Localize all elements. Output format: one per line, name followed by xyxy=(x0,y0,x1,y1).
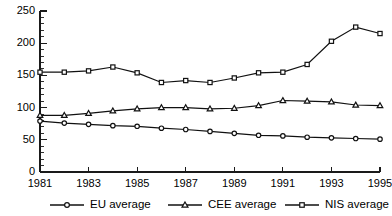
data-point-square xyxy=(111,65,115,69)
legend-label-0: EU average xyxy=(90,198,151,210)
data-point-triangle xyxy=(231,105,237,110)
x-axis-tick-label: 1995 xyxy=(368,177,392,189)
legend-item-0: EU average xyxy=(50,198,151,210)
data-point-triangle xyxy=(183,105,189,110)
data-point-square xyxy=(232,76,236,80)
data-point-circle xyxy=(159,126,163,130)
data-point-triangle xyxy=(110,108,116,113)
data-point-circle xyxy=(353,136,357,140)
data-point-triangle xyxy=(280,98,286,103)
chart-legend: EU averageCEE averageNIS average xyxy=(50,198,389,210)
data-point-circle xyxy=(135,124,139,128)
data-point-triangle xyxy=(353,102,359,107)
data-point-square xyxy=(184,78,188,82)
y-axis-tick-label: 200 xyxy=(17,36,35,48)
legend-marker-square xyxy=(300,203,304,207)
x-axis-group: 19811983198519871989199119931995 xyxy=(28,167,392,189)
x-axis-tick-label: 1991 xyxy=(271,177,295,189)
series-line-2 xyxy=(40,27,380,82)
data-point-triangle xyxy=(159,105,165,110)
legend-label-2: NIS average xyxy=(325,198,389,210)
x-axis-tick-label: 1993 xyxy=(319,177,343,189)
x-axis-tick-label: 1983 xyxy=(76,177,100,189)
data-point-circle xyxy=(232,131,236,135)
legend-label-1: CEE average xyxy=(208,198,276,210)
chart-canvas: 050100150200250 198119831985198719891991… xyxy=(0,0,392,216)
data-point-circle xyxy=(305,135,309,139)
data-point-square xyxy=(208,80,212,84)
x-axis-major-ticks xyxy=(40,167,380,172)
series-nis-average xyxy=(38,25,382,85)
data-point-triangle xyxy=(304,98,310,103)
data-series-layer xyxy=(37,25,383,141)
data-point-square xyxy=(86,69,90,73)
data-point-square xyxy=(256,71,260,75)
legend-marker-circle xyxy=(65,203,70,208)
data-point-circle xyxy=(86,122,90,126)
y-axis-major-ticks xyxy=(40,11,47,172)
x-axis-tick-label: 1981 xyxy=(28,177,52,189)
data-point-circle xyxy=(208,129,212,133)
data-point-circle xyxy=(62,121,66,125)
data-point-square xyxy=(38,70,42,74)
line-chart: 050100150200250 198119831985198719891991… xyxy=(0,0,392,216)
y-axis-tick-label: 150 xyxy=(17,68,35,80)
data-point-triangle xyxy=(256,103,262,108)
data-point-circle xyxy=(378,137,382,141)
data-point-circle xyxy=(111,123,115,127)
data-point-circle xyxy=(256,133,260,137)
data-point-square xyxy=(135,71,139,75)
x-axis-tick-label: 1985 xyxy=(125,177,149,189)
y-axis-tick-label: 0 xyxy=(29,165,35,177)
data-point-triangle xyxy=(207,106,213,111)
legend-marker-triangle xyxy=(182,202,188,207)
data-point-square xyxy=(281,70,285,74)
data-point-square xyxy=(354,25,358,29)
y-axis-tick-label: 50 xyxy=(23,133,35,145)
y-axis-tick-label: 100 xyxy=(17,101,35,113)
data-point-triangle xyxy=(377,103,383,108)
data-point-circle xyxy=(281,134,285,138)
data-point-circle xyxy=(38,119,42,123)
series-eu-average xyxy=(38,119,382,141)
data-point-triangle xyxy=(86,111,92,116)
data-point-triangle xyxy=(329,99,335,104)
data-point-square xyxy=(159,80,163,84)
data-point-circle xyxy=(183,127,187,131)
data-point-square xyxy=(62,70,66,74)
y-axis-group: 050100150200250 xyxy=(17,4,47,177)
data-point-triangle xyxy=(134,106,140,111)
y-axis-tick-labels: 050100150200250 xyxy=(17,4,35,177)
legend-item-2: NIS average xyxy=(285,198,389,210)
x-axis-tick-label: 1989 xyxy=(222,177,246,189)
data-point-square xyxy=(378,31,382,35)
data-point-square xyxy=(329,39,333,43)
series-cee-average xyxy=(37,98,383,118)
legend-item-1: CEE average xyxy=(168,198,276,210)
data-point-triangle xyxy=(61,112,67,117)
x-axis-tick-labels: 19811983198519871989199119931995 xyxy=(28,177,392,189)
x-axis-tick-label: 1987 xyxy=(173,177,197,189)
data-point-triangle xyxy=(37,112,43,117)
data-point-square xyxy=(305,62,309,66)
y-axis-minor-ticks xyxy=(40,17,44,165)
y-axis-tick-label: 250 xyxy=(17,4,35,16)
data-point-circle xyxy=(329,136,333,140)
